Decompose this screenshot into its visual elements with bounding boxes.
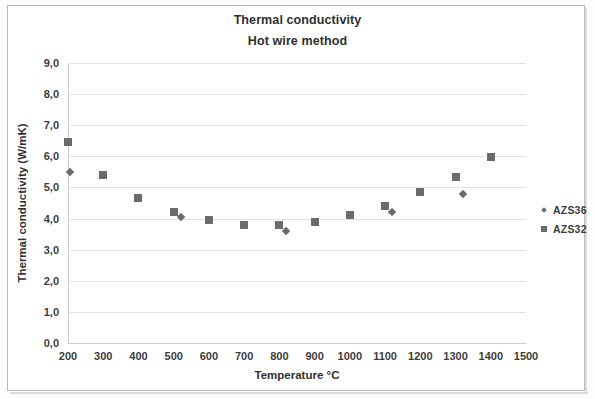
y-gridline: 5,0 [68,187,526,188]
chart-legend: AZS36AZS32 [537,200,587,238]
data-point-azs32 [346,211,354,219]
data-point-azs36 [282,227,290,235]
data-point-azs32 [487,153,495,161]
y-axis-tick-label: 0,0 [44,337,68,349]
y-axis-tick-label: 8,0 [44,88,68,100]
x-axis-tick-label: 300 [94,350,112,362]
y-axis-tick-label: 1,0 [44,306,68,318]
x-axis-tick-label: 1400 [479,350,503,362]
y-gridline: 6,0 [68,156,526,157]
data-point-azs32 [99,171,107,179]
data-point-azs32 [134,194,142,202]
x-axis-title: Temperature °C [68,369,526,381]
x-axis-tick-label: 200 [59,350,77,362]
y-gridline: 4,0 [68,219,526,220]
plot-area: 0,01,02,03,04,05,06,07,08,09,02003004005… [68,63,526,343]
data-point-azs36 [176,213,184,221]
data-point-azs32 [275,221,283,229]
document-shadow-bottom [10,392,588,394]
legend-label: AZS32 [553,223,587,235]
legend-item: AZS36 [537,200,587,219]
data-point-azs32 [64,138,72,146]
x-axis-tick-label: 800 [270,350,288,362]
y-axis-tick-label: 9,0 [44,57,68,69]
x-axis-tick-label: 900 [305,350,323,362]
data-point-azs32 [416,188,424,196]
legend-label: AZS36 [553,204,587,216]
y-gridline: 9,0 [68,63,526,64]
y-gridline: 3,0 [68,250,526,251]
x-axis-tick-label: 1300 [443,350,467,362]
data-point-azs32 [205,216,213,224]
x-axis-tick-label: 1000 [338,350,362,362]
y-axis-title-wrapper: Thermal conductivity (W/mK) [28,63,29,343]
data-point-azs32 [311,218,319,226]
x-axis-tick-label: 500 [165,350,183,362]
y-axis-tick-label: 2,0 [44,275,68,287]
chart-subtitle: Hot wire method [0,34,595,48]
x-axis-tick-label: 1500 [514,350,538,362]
y-gridline: 8,0 [68,94,526,95]
data-point-azs32 [381,202,389,210]
y-axis-tick-label: 5,0 [44,181,68,193]
legend-item: AZS32 [537,219,587,238]
x-axis-tick-label: 1200 [408,350,432,362]
y-axis-tick-label: 7,0 [44,119,68,131]
y-gridline: 1,0 [68,312,526,313]
data-point-azs32 [452,173,460,181]
data-point-azs36 [388,208,396,216]
legend-diamond-icon [537,208,550,212]
y-axis-title: Thermal conductivity (W/mK) [16,123,28,282]
data-point-azs36 [458,189,466,197]
y-gridline: 0,0 [68,343,526,344]
y-gridline: 7,0 [68,125,526,126]
x-axis-tick-label: 1100 [373,350,397,362]
data-point-azs32 [240,221,248,229]
x-axis-tick-label: 600 [200,350,218,362]
x-axis-tick-label: 400 [129,350,147,362]
y-axis-tick-label: 3,0 [44,244,68,256]
y-axis-tick-label: 4,0 [44,213,68,225]
page-root: Thermal conductivity Hot wire method The… [0,0,595,399]
y-axis-tick-label: 6,0 [44,150,68,162]
legend-square-icon [537,226,550,232]
data-point-azs32 [170,208,178,216]
y-gridline: 2,0 [68,281,526,282]
chart-title: Thermal conductivity [0,13,595,27]
x-axis-tick-label: 700 [235,350,253,362]
